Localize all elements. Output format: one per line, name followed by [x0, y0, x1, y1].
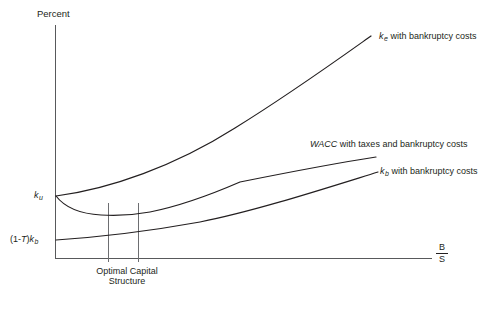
curve-label-kb-subscript: b: [385, 170, 389, 177]
curve-label-ke: ke with bankruptcy costs: [379, 31, 476, 41]
y-tick-kb-subscript: b: [34, 238, 38, 245]
curve-label-kb-symbol: k: [380, 166, 385, 176]
x-axis-numerator: B: [436, 243, 448, 254]
curve-label-ke-symbol: k: [379, 31, 384, 41]
y-axis-title: Percent: [37, 9, 70, 20]
curve-ke: [56, 36, 371, 196]
curve-label-wacc-symbol: WACC: [310, 139, 337, 149]
chart-plot-area: [0, 0, 503, 310]
curve-label-ke-subscript: e: [384, 35, 388, 42]
chart-figure: Percent ke with bankruptcy costs WACC wi…: [0, 0, 503, 310]
x-axis-denominator: S: [436, 254, 448, 265]
y-tick-kb-prefix: (1-: [10, 234, 21, 244]
curve-label-ke-text: with bankruptcy costs: [390, 31, 476, 41]
y-tick-ku-subscript: u: [39, 194, 43, 201]
curve-label-kb: kb with bankruptcy costs: [380, 166, 477, 176]
curve-kb: [56, 172, 378, 240]
curve-label-kb-text: with bankruptcy costs: [391, 166, 477, 176]
x-axis-title: B S: [436, 243, 448, 265]
y-tick-ku-symbol: k: [34, 190, 39, 200]
optimal-capital-structure-label: Optimal Capital Structure: [82, 266, 172, 287]
y-tick-label-ku: ku: [34, 190, 43, 200]
curve-label-wacc-text: with taxes and bankruptcy costs: [340, 139, 468, 149]
curve-label-wacc: WACC with taxes and bankruptcy costs: [310, 139, 467, 149]
y-tick-label-after-tax-kb: (1-T)kb: [10, 234, 38, 244]
